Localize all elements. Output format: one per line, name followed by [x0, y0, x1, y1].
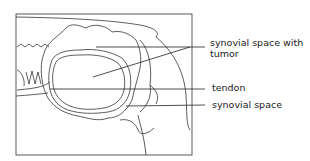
skin-line	[16, 17, 157, 37]
label-line: synovial space with	[210, 37, 303, 48]
lower-line	[16, 93, 48, 96]
leader-line-2	[93, 47, 190, 77]
bottom-line	[138, 115, 146, 155]
label-line: tumor	[210, 48, 303, 59]
frame	[16, 14, 192, 155]
label-tendon: tendon	[212, 82, 245, 93]
right-tissue	[140, 40, 158, 112]
label-synovial-space: synovial space	[212, 99, 282, 110]
ribbed-tendon	[17, 70, 50, 90]
outer-curve	[156, 37, 190, 130]
tumor-outline	[41, 25, 141, 120]
tendon-wavy	[17, 44, 49, 47]
label-synovial-space-tumor: synovial space with tumor	[210, 37, 303, 59]
anatomy-drawing	[0, 0, 310, 161]
tendon-core	[53, 55, 125, 110]
synovial-ring	[49, 49, 131, 113]
lower-blob	[120, 120, 154, 134]
leader-line-synovial	[126, 105, 205, 106]
